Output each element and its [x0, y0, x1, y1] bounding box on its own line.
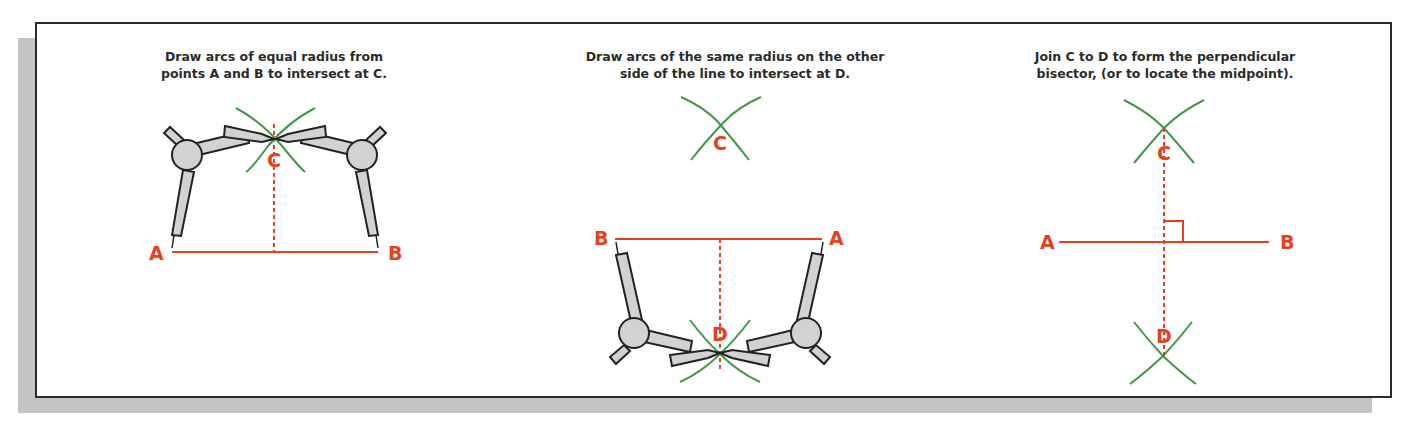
panel-3-drawing: A B C D — [1040, 100, 1294, 384]
label-a: A — [829, 227, 844, 249]
label-d: D — [712, 323, 728, 345]
bisector-construction-diagram: A B C C B — [0, 0, 1407, 422]
compass-left — [164, 126, 274, 248]
panel-2-drawing: C B A D — [594, 97, 844, 382]
label-c: C — [1157, 142, 1171, 164]
panel-1-drawing: A B C — [149, 108, 402, 264]
compass-left — [610, 242, 720, 366]
label-b: B — [388, 242, 402, 264]
label-c: C — [713, 132, 727, 154]
label-c: C — [267, 149, 281, 171]
compass-right — [720, 242, 830, 366]
label-b: B — [1280, 231, 1294, 253]
label-b: B — [594, 227, 608, 249]
label-d: D — [1156, 325, 1172, 347]
label-a: A — [1040, 231, 1055, 253]
right-angle-marker — [1164, 221, 1183, 242]
compass-right — [276, 126, 386, 248]
label-a: A — [149, 242, 164, 264]
